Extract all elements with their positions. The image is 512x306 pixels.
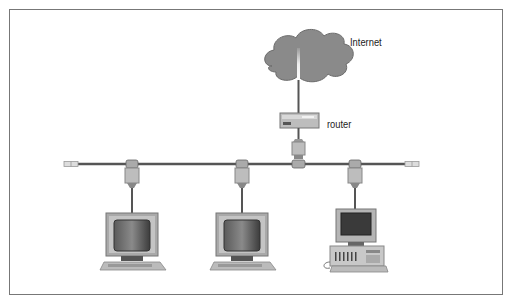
desktop-computer-icon (324, 209, 388, 272)
router-label: router (327, 118, 351, 130)
router-transceiver-icon (292, 139, 305, 159)
internet-cloud-icon (265, 29, 354, 81)
workstation-2-icon (210, 213, 276, 270)
network-diagram (0, 0, 512, 306)
workstation-1-icon (100, 213, 166, 270)
internet-label: Internet (350, 36, 382, 48)
transceiver-icons (125, 168, 362, 188)
router-icon (280, 113, 319, 128)
